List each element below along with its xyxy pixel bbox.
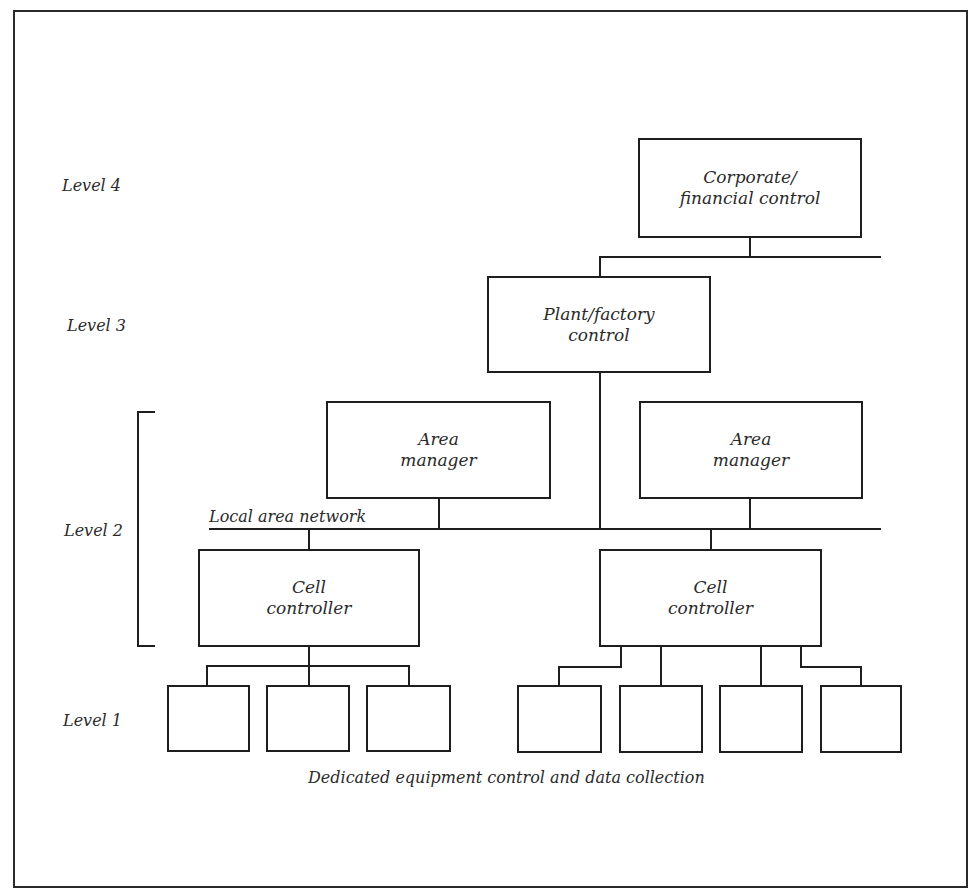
connector-equip-r3: [760, 646, 762, 686]
area-manager-left-line1: Area: [418, 429, 459, 450]
corporate-label-line1: Corporate/: [703, 167, 796, 188]
connector-to-plant: [599, 256, 601, 277]
equipment-box-left-2: [266, 685, 350, 752]
area-manager-right-line1: Area: [731, 429, 772, 450]
area-manager-right-line2: manager: [713, 450, 789, 471]
corporate-financial-control-box: Corporate/ financial control: [638, 138, 862, 238]
cell-controller-right-line2: controller: [668, 598, 753, 619]
connector-equip-r1-c: [558, 666, 560, 686]
hierarchical-control-diagram: Level 4 Level 3 Level 2 Level 1 Corporat…: [0, 0, 978, 893]
cell-controller-right-line1: Cell: [694, 577, 728, 598]
connector-lan-to-cell-left: [308, 528, 310, 550]
connector-equip-r4-c: [860, 666, 862, 686]
connector-lan-to-cell-right: [710, 528, 712, 550]
corporate-network-line: [599, 256, 881, 258]
connector-plant-to-lan: [599, 372, 601, 530]
equipment-box-right-2: [619, 685, 703, 753]
connector-area-right-to-lan: [749, 498, 751, 530]
level-1-caption: Dedicated equipment control and data col…: [308, 768, 705, 787]
connector-equip-l1: [206, 665, 208, 686]
connector-equip-r1-b: [558, 666, 622, 668]
level-2-label: Level 2: [64, 521, 123, 540]
equipment-box-right-4: [820, 685, 902, 753]
plant-label-line2: control: [568, 325, 629, 346]
connector-equip-r4-a: [800, 646, 802, 668]
level-3-label: Level 3: [67, 316, 126, 335]
corporate-label-line2: financial control: [680, 188, 821, 209]
connector-equip-r4-b: [800, 666, 862, 668]
plant-factory-control-box: Plant/factory control: [487, 276, 711, 373]
cell-controller-left-line1: Cell: [292, 577, 326, 598]
connector-equip-r1-a: [620, 646, 622, 668]
plant-label-line1: Plant/factory: [543, 304, 654, 325]
area-manager-right-box: Area manager: [639, 401, 863, 499]
cell-controller-right-box: Cell controller: [599, 549, 822, 647]
equipment-box-right-1: [517, 685, 602, 753]
equipment-box-right-3: [719, 685, 803, 753]
connector-cell-left-bus: [206, 665, 410, 667]
connector-equip-r2: [660, 646, 662, 686]
level-2-bracket-top: [137, 411, 155, 413]
cell-controller-left-line2: controller: [267, 598, 352, 619]
level-2-bracket: [137, 411, 139, 647]
area-manager-left-line2: manager: [400, 450, 476, 471]
level-4-label: Level 4: [62, 176, 121, 195]
level-2-bracket-bottom: [137, 645, 155, 647]
connector-equip-l3: [408, 665, 410, 686]
level-1-label: Level 1: [63, 711, 122, 730]
local-area-network-label: Local area network: [209, 507, 366, 526]
connector-area-left-to-lan: [438, 498, 440, 530]
connector-corporate-down: [749, 237, 751, 258]
area-manager-left-box: Area manager: [326, 401, 551, 499]
cell-controller-left-box: Cell controller: [198, 549, 420, 647]
equipment-box-left-1: [167, 685, 250, 752]
equipment-box-left-3: [366, 685, 451, 752]
